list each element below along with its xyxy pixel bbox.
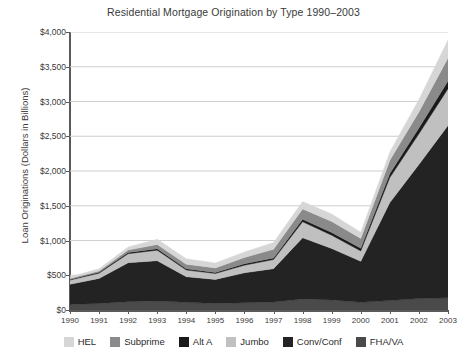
x-tick-label: 1992 [113,316,143,325]
x-tick-label: 1990 [55,316,85,325]
x-tick-mark [215,310,216,314]
x-tick-label: 1991 [84,316,114,325]
stacked-area-plot [70,32,448,310]
legend-item-hel[interactable]: HEL [64,336,96,347]
x-tick-mark [361,310,362,314]
x-tick-mark [390,310,391,314]
x-tick-label: 1998 [288,316,318,325]
x-tick-mark [99,310,100,314]
legend-label: HEL [78,336,96,347]
legend-label: Alt A [193,336,213,347]
legend-label: Jumbo [240,336,269,347]
legend-item-alt-a[interactable]: Alt A [179,336,213,347]
legend-label: Subprime [124,336,165,347]
y-tick-label: $500 [6,270,66,280]
legend-swatch-icon [283,337,293,347]
legend-swatch-icon [179,337,189,347]
y-tick-label: $2,000 [6,166,66,176]
x-tick-mark [244,310,245,314]
x-tick-label: 1999 [317,316,347,325]
x-tick-label: 2001 [375,316,405,325]
y-tick-label: $1,500 [6,201,66,211]
chart-figure: Residential Mortgage Origination by Type… [0,0,467,360]
legend-swatch-icon [64,337,74,347]
x-tick-label: 2002 [404,316,434,325]
y-tick-label: $3,000 [6,97,66,107]
legend-item-jumbo[interactable]: Jumbo [226,336,269,347]
x-tick-mark [332,310,333,314]
y-tick-label: $4,000 [6,27,66,37]
y-tick-label: $0 [6,305,66,315]
x-tick-mark [157,310,158,314]
legend-item-fha-va[interactable]: FHA/VA [356,336,404,347]
chart-title: Residential Mortgage Origination by Type… [0,6,467,18]
legend-label: FHA/VA [370,336,404,347]
x-tick-mark [303,310,304,314]
legend-swatch-icon [226,337,236,347]
x-tick-mark [186,310,187,314]
legend-item-subprime[interactable]: Subprime [110,336,165,347]
x-tick-label: 1994 [171,316,201,325]
y-tick-label: $3,500 [6,62,66,72]
x-tick-mark [448,310,449,314]
x-tick-label: 1997 [259,316,289,325]
x-tick-label: 2000 [346,316,376,325]
x-axis-ticks: 1990199119921993199419951996199719981999… [70,310,448,332]
x-tick-label: 1995 [200,316,230,325]
x-tick-mark [274,310,275,314]
x-tick-mark [128,310,129,314]
legend-label: Conv/Conf [297,336,342,347]
x-tick-label: 2003 [433,316,463,325]
x-tick-mark [70,310,71,314]
x-tick-label: 1996 [229,316,259,325]
legend-swatch-icon [110,337,120,347]
x-tick-label: 1993 [142,316,172,325]
y-tick-label: $2,500 [6,131,66,141]
x-tick-mark [419,310,420,314]
y-tick-label: $1,000 [6,236,66,246]
chart-legend: HELSubprimeAlt AJumboConv/ConfFHA/VA [0,336,467,347]
legend-swatch-icon [356,337,366,347]
y-axis-ticks: $4,000$3,500$3,000$2,500$2,000$1,500$1,0… [2,32,66,310]
plot-area [70,32,448,310]
legend-item-conv-conf[interactable]: Conv/Conf [283,336,342,347]
